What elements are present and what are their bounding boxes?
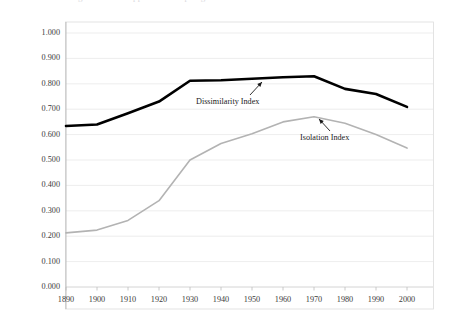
- y-tick-label-0.200: 0.200: [14, 231, 60, 240]
- dissimilarity-index-annotation: Dissimilarity Index: [196, 97, 259, 106]
- y-tick-label-0.000: 0.000: [14, 282, 60, 291]
- isolation-index-annotation: Isolation Index: [300, 133, 349, 142]
- y-tick-label-0.900: 0.900: [14, 53, 60, 62]
- y-tick-label-0.600: 0.600: [14, 130, 60, 139]
- axis-ticks-group: [66, 287, 407, 291]
- y-tick-label-0.800: 0.800: [14, 79, 60, 88]
- plot-svg: [0, 0, 456, 331]
- y-tick-label-1.000: 1.000: [14, 28, 60, 37]
- y-tick-label-0.100: 0.100: [14, 257, 60, 266]
- x-tick-label-2000: 2000: [387, 295, 427, 304]
- y-tick-label-0.400: 0.400: [14, 180, 60, 189]
- annotation-arrows-group: [250, 82, 330, 131]
- y-tick-label-0.300: 0.300: [14, 206, 60, 215]
- figure-container: the figure title is clipped at the top e…: [0, 0, 456, 331]
- segregation-indices-line-chart: 0.0000.1000.2000.3000.4000.5000.6000.700…: [0, 0, 456, 331]
- y-tick-label-0.700: 0.700: [14, 104, 60, 113]
- plot-frame: [66, 22, 434, 309]
- y-tick-label-0.500: 0.500: [14, 155, 60, 164]
- gridlines-group: [66, 33, 433, 287]
- plot-border: [66, 22, 434, 309]
